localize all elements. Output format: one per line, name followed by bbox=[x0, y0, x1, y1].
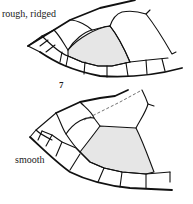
carapace-figure: rough, ridged 7 smooth bbox=[0, 0, 193, 204]
shaded-scute-bottom bbox=[80, 126, 154, 174]
carapace-bottom-drawing bbox=[0, 0, 193, 204]
